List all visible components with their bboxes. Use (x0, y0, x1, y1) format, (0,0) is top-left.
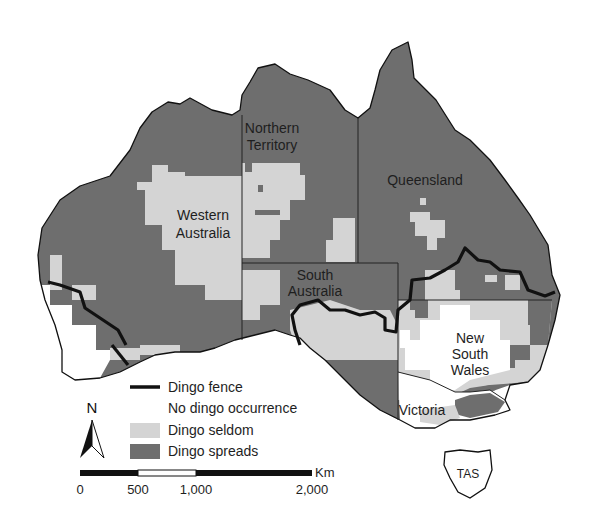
australia-dingo-map: Northern Territory Queensland Western Au… (0, 0, 589, 530)
scale-tick-1000: 1,000 (180, 482, 213, 497)
scale-segment-0-500 (80, 470, 138, 476)
legend-swatch-none (130, 401, 160, 416)
label-wa-line1: Western (177, 207, 229, 223)
scale-segment-1000-2000 (196, 470, 312, 476)
distribution-layer (0, 0, 589, 530)
label-tas: TAS (457, 467, 479, 481)
scale-bar: Km 0 500 1,000 2,000 (76, 465, 334, 497)
legend-label-none: No dingo occurrence (168, 400, 297, 416)
label-sa-line2: Australia (288, 283, 343, 299)
label-nt-line1: Northern (245, 120, 299, 136)
legend-swatch-seldom (130, 423, 160, 438)
legend-label-seldom: Dingo seldom (168, 422, 254, 438)
north-arrow: N (80, 399, 104, 458)
label-nsw-line2: South (452, 346, 489, 362)
legend-label-fence: Dingo fence (168, 379, 243, 395)
legend-swatch-spreads (130, 444, 160, 459)
label-qld: Queensland (387, 172, 463, 188)
label-nsw-line3: Wales (451, 362, 489, 378)
label-sa-line1: South (297, 267, 334, 283)
label-nt-line2: Territory (247, 137, 298, 153)
label-vic: Victoria (399, 402, 446, 418)
label-wa-line2: Australia (176, 225, 231, 241)
scale-segment-500-1000 (138, 470, 196, 476)
north-arrow-left-icon (80, 420, 92, 458)
scale-tick-0: 0 (76, 482, 83, 497)
scale-tick-2000: 2,000 (296, 482, 329, 497)
legend: Dingo fence No dingo occurrence Dingo se… (130, 379, 297, 459)
north-arrow-right-icon (92, 420, 104, 458)
label-nsw-line1: New (456, 330, 485, 346)
legend-label-spreads: Dingo spreads (168, 443, 258, 459)
scale-tick-500: 500 (127, 482, 149, 497)
north-label: N (87, 399, 98, 416)
scale-unit: Km (315, 465, 335, 480)
